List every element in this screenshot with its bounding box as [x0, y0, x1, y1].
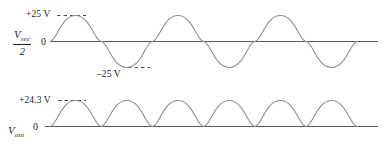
- rectifier-waveform-figure: Vsec 2 0 +25 V –25 V Vout 0 +24.3 V: [0, 0, 390, 152]
- fraction-denominator: 2: [13, 45, 31, 57]
- subscript-out: out: [15, 131, 25, 139]
- annotation-peak-positive-25v: +25 V: [26, 9, 50, 19]
- zero-tick-label-top: 0: [41, 36, 46, 47]
- zero-tick-label-bottom: 0: [33, 121, 38, 132]
- axis-label-v-output: Vout: [8, 121, 24, 139]
- panel-output-voltage: [0, 76, 390, 152]
- secondary-voltage-plot: [0, 0, 390, 76]
- panel-secondary-voltage: Vsec 2 0 +25 V –25 V: [0, 0, 390, 76]
- rectified-waveform-curve: [50, 101, 357, 127]
- axis-label-v-secondary: Vsec 2: [13, 29, 31, 57]
- output-voltage-plot: [0, 76, 390, 152]
- fraction-numerator: Vsec: [13, 29, 31, 45]
- variable-v-out: Vout: [8, 124, 24, 136]
- fraction-v-sec-over-2: Vsec 2: [13, 29, 31, 57]
- annotation-peak-output-24-3v: +24.3 V: [19, 95, 51, 105]
- subscript-sec: sec: [21, 35, 31, 43]
- variable-v: V: [14, 28, 21, 40]
